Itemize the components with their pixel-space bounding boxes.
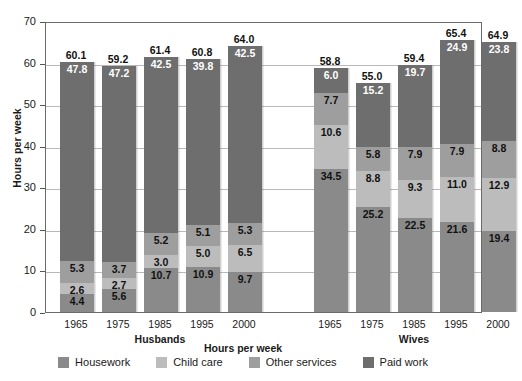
segment-value-label: 19.7 (398, 66, 432, 78)
bar-wives-2000[interactable]: 19.412.98.823.8 (482, 42, 516, 312)
plot-area: 4.42.65.347.85.62.73.747.210.73.05.242.5… (45, 22, 482, 313)
x-tick-label: 1975 (95, 318, 141, 330)
y-tick-label: 50 (10, 98, 36, 110)
segment-value-label: 39.8 (186, 60, 220, 72)
bar-total-label: 59.4 (389, 52, 439, 64)
bar-segment-child-care[interactable]: 12.9 (482, 178, 516, 232)
segment-value-label: 8.8 (356, 172, 390, 184)
bar-segment-child-care[interactable]: 3.0 (144, 255, 178, 267)
segment-value-label: 6.0 (314, 69, 348, 81)
y-tick-label: 60 (10, 57, 36, 69)
legend-item-paid-work[interactable]: Paid work (363, 356, 428, 368)
bar-segment-housework[interactable]: 22.5 (398, 218, 432, 312)
bar-wives-1975[interactable]: 25.28.85.815.2 (356, 83, 390, 312)
bar-segment-other-services[interactable]: 7.9 (398, 147, 432, 180)
x-tick-label: 1995 (433, 318, 479, 330)
x-axis-title: Hours per week (0, 342, 486, 354)
legend-swatch-icon (58, 357, 69, 368)
bar-segment-other-services[interactable]: 5.2 (144, 233, 178, 255)
y-tick-mark (40, 313, 45, 314)
bar-husbands-1965[interactable]: 4.42.65.347.8 (60, 62, 94, 312)
bar-husbands-2000[interactable]: 9.76.55.342.5 (228, 46, 262, 312)
bar-segment-child-care[interactable]: 8.8 (356, 171, 390, 208)
bar-segment-child-care[interactable]: 9.3 (398, 180, 432, 219)
legend-item-child-care[interactable]: Child care (156, 356, 223, 368)
segment-value-label: 5.0 (186, 247, 220, 259)
bar-segment-other-services[interactable]: 5.8 (356, 147, 390, 171)
segment-value-label: 9.7 (228, 273, 262, 285)
segment-value-label: 4.4 (60, 295, 94, 307)
bar-segment-other-services[interactable]: 7.7 (314, 93, 348, 125)
bar-segment-other-services[interactable]: 8.8 (482, 141, 516, 178)
y-tick-label: 0 (10, 306, 36, 318)
legend-item-other-services[interactable]: Other services (249, 356, 337, 368)
bar-segment-other-services[interactable]: 5.3 (60, 261, 94, 283)
segment-value-label: 2.6 (60, 284, 94, 296)
bar-husbands-1985[interactable]: 10.73.05.242.5 (144, 57, 178, 312)
y-tick-label: 10 (10, 264, 36, 276)
chart-legend: HouseworkChild careOther servicesPaid wo… (0, 356, 486, 368)
bar-segment-paid-work[interactable]: 15.2 (356, 83, 390, 146)
segment-value-label: 15.2 (356, 84, 390, 96)
legend-label: Other services (266, 356, 337, 368)
segment-value-label: 5.3 (60, 262, 94, 274)
bar-segment-housework[interactable]: 5.6 (102, 289, 136, 312)
bar-segment-housework[interactable]: 25.2 (356, 207, 390, 312)
segment-value-label: 7.9 (398, 148, 432, 160)
bar-segment-paid-work[interactable]: 47.8 (60, 62, 94, 261)
x-tick-label: 1995 (179, 318, 225, 330)
bar-segment-paid-work[interactable]: 24.9 (440, 40, 474, 144)
bar-segment-paid-work[interactable]: 42.5 (144, 57, 178, 234)
bar-wives-1965[interactable]: 34.510.67.76.0 (314, 68, 348, 312)
bar-segment-other-services[interactable]: 3.7 (102, 262, 136, 277)
y-tick-label: 40 (10, 140, 36, 152)
x-tick-label: 1985 (391, 318, 437, 330)
bar-husbands-1995[interactable]: 10.95.05.139.8 (186, 59, 220, 312)
bar-segment-other-services[interactable]: 7.9 (440, 144, 474, 177)
y-tick-label: 70 (10, 15, 36, 27)
segment-value-label: 9.3 (398, 181, 432, 193)
bar-segment-housework[interactable]: 10.7 (144, 268, 178, 312)
bar-segment-housework[interactable]: 9.7 (228, 272, 262, 312)
bar-segment-child-care[interactable]: 6.5 (228, 245, 262, 272)
bar-segment-child-care[interactable]: 2.7 (102, 278, 136, 289)
bar-segment-child-care[interactable]: 5.0 (186, 246, 220, 267)
segment-value-label: 7.9 (440, 145, 474, 157)
bar-segment-paid-work[interactable]: 19.7 (398, 65, 432, 147)
bar-segment-housework[interactable]: 21.6 (440, 222, 474, 312)
bar-segment-housework[interactable]: 19.4 (482, 231, 516, 312)
bar-segment-other-services[interactable]: 5.3 (228, 223, 262, 245)
bar-segment-child-care[interactable]: 2.6 (60, 283, 94, 294)
segment-value-label: 10.6 (314, 126, 348, 138)
bar-segment-paid-work[interactable]: 6.0 (314, 68, 348, 93)
segment-value-label: 5.1 (186, 226, 220, 238)
y-tick-label: 30 (10, 181, 36, 193)
bar-total-label: 64.9 (473, 29, 522, 41)
bar-wives-1985[interactable]: 22.59.37.919.7 (398, 65, 432, 312)
x-tick-label: 2000 (475, 318, 521, 330)
segment-value-label: 47.2 (102, 67, 136, 79)
legend-label: Housework (75, 356, 130, 368)
bar-segment-housework[interactable]: 10.9 (186, 267, 220, 312)
bar-husbands-1975[interactable]: 5.62.73.747.2 (102, 66, 136, 312)
bar-segment-housework[interactable]: 34.5 (314, 169, 348, 312)
segment-value-label: 47.8 (60, 63, 94, 75)
segment-value-label: 3.7 (102, 263, 136, 275)
bar-wives-1995[interactable]: 21.611.07.924.9 (440, 40, 474, 312)
bar-segment-housework[interactable]: 4.4 (60, 294, 94, 312)
x-tick-label: 1985 (137, 318, 183, 330)
segment-value-label: 6.5 (228, 246, 262, 258)
bar-segment-paid-work[interactable]: 39.8 (186, 59, 220, 224)
bar-segment-child-care[interactable]: 11.0 (440, 177, 474, 223)
segment-value-label: 21.6 (440, 223, 474, 235)
segment-value-label: 22.5 (398, 219, 432, 231)
bar-segment-paid-work[interactable]: 23.8 (482, 42, 516, 141)
segment-value-label: 19.4 (482, 232, 516, 244)
legend-swatch-icon (363, 357, 374, 368)
bar-segment-child-care[interactable]: 10.6 (314, 125, 348, 169)
legend-item-housework[interactable]: Housework (58, 356, 130, 368)
bar-segment-paid-work[interactable]: 42.5 (228, 46, 262, 223)
bar-segment-paid-work[interactable]: 47.2 (102, 66, 136, 262)
bar-segment-other-services[interactable]: 5.1 (186, 225, 220, 246)
x-tick-label: 1965 (307, 318, 353, 330)
